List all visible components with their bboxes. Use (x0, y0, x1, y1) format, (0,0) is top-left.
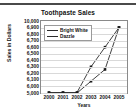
gridline (41, 54, 127, 55)
y-axis-tick-labels: 10,0006,9006,8006,7006,6006,5006,4006,30… (0, 20, 39, 94)
y-tick-label: 6,000 (1, 84, 39, 89)
x-tick-label: 2005 (109, 95, 129, 101)
chart-legend: Bright White Dazzle (44, 25, 92, 41)
gridline (41, 47, 127, 48)
gridline (41, 80, 127, 81)
y-tick-label: 6,900 (1, 25, 39, 30)
legend-label: Bright White (60, 28, 88, 33)
y-tick-label: 6,300 (1, 64, 39, 69)
gridline (41, 60, 127, 61)
y-tick-label: 6,400 (1, 58, 39, 63)
y-tick-label: 6,100 (1, 77, 39, 82)
gridline (41, 67, 127, 68)
x-axis-title: Years (40, 103, 128, 109)
legend-line-icon (47, 30, 58, 31)
legend-item-dazzle: Dazzle (47, 34, 88, 39)
gridline (41, 93, 127, 94)
y-tick-label: 6,600 (1, 45, 39, 50)
y-tick-label: 5,000 (1, 91, 39, 96)
chart-title: Toothpaste Sales (0, 9, 136, 17)
legend-line-icon (47, 36, 58, 37)
chart-figure: Toothpaste Sales Sales in Dollars 10,000… (0, 0, 136, 112)
y-tick-label: 6,700 (1, 38, 39, 43)
legend-item-bright-white: Bright White (47, 28, 88, 33)
y-tick-label: 6,500 (1, 51, 39, 56)
x-axis-tick-labels: 200020012002200320042005 (40, 95, 128, 103)
y-tick-label: 10,000 (1, 19, 39, 24)
y-tick-label: 6,200 (1, 71, 39, 76)
y-tick-label: 6,800 (1, 32, 39, 37)
header-divider (0, 3, 136, 5)
data-point-marker (104, 68, 107, 71)
gridline (41, 86, 127, 87)
gridline (41, 73, 127, 74)
legend-label: Dazzle (60, 34, 75, 39)
